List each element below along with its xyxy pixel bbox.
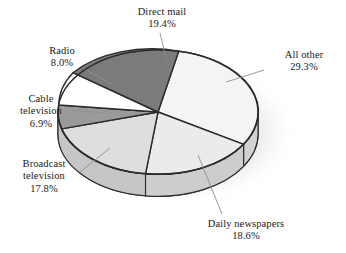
slice-label-daily-newspapers-name: Daily newspapers bbox=[186, 218, 306, 230]
slice-label-direct-mail: Direct mail 19.4% bbox=[116, 6, 208, 31]
slice-label-broadcast-television-percent: 17.8% bbox=[2, 183, 86, 195]
slice-label-broadcast-television: Broadcast television 17.8% bbox=[2, 158, 86, 195]
slice-label-broadcast-television-name2: television bbox=[2, 170, 86, 182]
slice-label-radio-percent: 8.0% bbox=[32, 57, 92, 69]
slice-label-broadcast-television-name: Broadcast bbox=[2, 158, 86, 170]
slice-label-radio: Radio 8.0% bbox=[32, 45, 92, 70]
pie-chart-figure: Direct mail 19.4% All other 29.3% Radio … bbox=[0, 0, 346, 253]
slice-label-daily-newspapers-percent: 18.6% bbox=[186, 230, 306, 242]
slice-label-cable-television-name2: television bbox=[4, 105, 78, 117]
slice-label-direct-mail-name: Direct mail bbox=[116, 6, 208, 18]
slice-label-direct-mail-percent: 19.4% bbox=[116, 18, 208, 30]
slice-label-cable-television-percent: 6.9% bbox=[4, 118, 78, 130]
slice-label-cable-television-name: Cable bbox=[4, 93, 78, 105]
slice-label-all-other: All other 29.3% bbox=[268, 49, 340, 74]
slice-label-cable-television: Cable television 6.9% bbox=[4, 93, 78, 130]
slice-label-all-other-percent: 29.3% bbox=[268, 61, 340, 73]
slice-label-all-other-name: All other bbox=[268, 49, 340, 61]
slice-label-radio-name: Radio bbox=[32, 45, 92, 57]
slice-label-daily-newspapers: Daily newspapers 18.6% bbox=[186, 218, 306, 243]
